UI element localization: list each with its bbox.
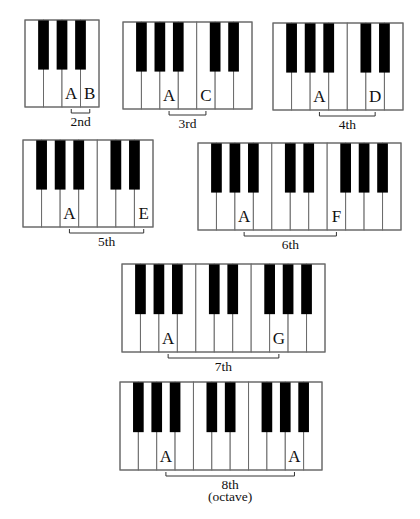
black-key xyxy=(227,264,238,314)
black-key xyxy=(285,143,296,193)
note-label: A xyxy=(288,447,301,466)
black-key xyxy=(323,23,334,73)
note-label: B xyxy=(84,84,95,103)
interval-label: 2nd xyxy=(70,114,91,129)
black-key xyxy=(36,140,47,190)
black-key xyxy=(230,143,241,193)
note-label: C xyxy=(200,86,211,105)
interval-bracket xyxy=(71,109,90,113)
black-key xyxy=(211,143,222,193)
black-key xyxy=(57,20,68,70)
note-label: D xyxy=(369,87,381,106)
keyboard-seventh: AG7th xyxy=(122,264,325,374)
interval-bracket xyxy=(169,111,206,115)
black-key xyxy=(206,382,217,432)
keyboard-octave: AA8th(octave) xyxy=(120,382,322,504)
black-key xyxy=(264,264,275,314)
interval-bracket xyxy=(168,354,279,358)
black-key xyxy=(303,143,314,193)
black-key xyxy=(75,20,86,70)
black-key xyxy=(129,140,140,190)
black-key xyxy=(286,23,297,73)
black-key xyxy=(248,143,259,193)
keyboard-third: AC3rd xyxy=(123,22,252,131)
interval-bracket xyxy=(166,472,295,476)
black-key xyxy=(301,264,312,314)
black-key xyxy=(283,264,294,314)
black-key xyxy=(360,23,371,73)
interval-label: 6th xyxy=(282,237,300,252)
keyboard-sixth: AF6th xyxy=(198,143,401,252)
note-label: A xyxy=(163,86,176,105)
black-key xyxy=(172,264,183,314)
black-key xyxy=(298,382,309,432)
interval-bracket xyxy=(319,112,375,116)
black-key xyxy=(280,382,291,432)
interval-bracket xyxy=(69,229,143,233)
black-key xyxy=(135,264,146,314)
note-label: A xyxy=(313,87,326,106)
interval-bracket xyxy=(244,232,336,236)
note-label: F xyxy=(332,207,341,226)
black-key xyxy=(154,264,165,314)
black-key xyxy=(133,382,144,432)
black-key xyxy=(377,143,388,193)
note-label: E xyxy=(139,204,149,223)
interval-label: 7th xyxy=(215,359,233,374)
note-label: A xyxy=(65,84,78,103)
black-key xyxy=(55,140,66,190)
interval-label: 3rd xyxy=(179,116,197,131)
interval-label: 5th xyxy=(98,234,116,249)
keyboard-second: AB2nd xyxy=(25,20,99,129)
black-key xyxy=(262,382,273,432)
black-key xyxy=(173,22,184,72)
black-key xyxy=(170,382,181,432)
note-label: A xyxy=(63,204,76,223)
interval-label: 4th xyxy=(339,117,357,132)
black-key xyxy=(379,23,390,73)
interval-diagram: AB2ndAC3rdAD4thAE5thAF6thAG7thAA8th(octa… xyxy=(0,0,420,519)
black-key xyxy=(136,22,147,72)
note-label: A xyxy=(162,329,175,348)
note-label: A xyxy=(160,447,173,466)
note-label: G xyxy=(273,329,285,348)
keyboard-fourth: AD4th xyxy=(273,23,403,132)
black-key xyxy=(110,140,121,190)
black-key xyxy=(225,382,236,432)
black-key xyxy=(73,140,84,190)
black-key xyxy=(210,22,221,72)
black-key xyxy=(151,382,162,432)
black-key xyxy=(38,20,49,70)
black-key xyxy=(359,143,370,193)
note-label: A xyxy=(238,207,251,226)
black-key xyxy=(340,143,351,193)
black-key xyxy=(209,264,220,314)
black-key xyxy=(305,23,316,73)
black-key xyxy=(228,22,239,72)
keyboard-fifth: AE5th xyxy=(23,140,153,249)
interval-sublabel: (octave) xyxy=(208,489,252,504)
black-key xyxy=(155,22,166,72)
